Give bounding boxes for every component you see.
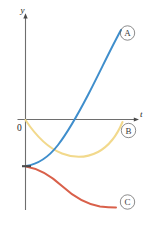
curve-label-a: A xyxy=(120,26,134,40)
curve-label-b: B xyxy=(121,123,135,137)
figure-canvas: y t 0 A B C xyxy=(0,0,150,226)
y-axis-label: y xyxy=(20,5,25,15)
curve-b-path xyxy=(26,120,123,157)
curve-label-c: C xyxy=(120,195,134,209)
x-axis-label: t xyxy=(140,109,143,119)
curve-label-c-text: C xyxy=(124,197,130,207)
curve-label-a-text: A xyxy=(124,28,131,38)
curve-c-path xyxy=(26,167,116,208)
curve-label-b-text: B xyxy=(125,126,131,136)
x-axis-arrowhead xyxy=(134,117,139,121)
origin-tick-label: 0 xyxy=(17,123,22,133)
curve-plot: y t 0 A B C xyxy=(0,0,150,226)
